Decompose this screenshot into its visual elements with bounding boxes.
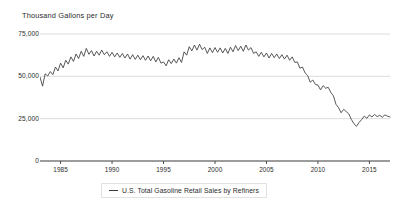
plot-area: 1985199019952000200520102015 <box>40 0 392 204</box>
y-axis-tick-label: 0 <box>5 157 39 164</box>
data-series-line <box>40 44 390 126</box>
chart-container: Thousand Gallons per Day 025,00050,00075… <box>0 0 407 204</box>
x-axis-tick-label: 2015 <box>362 166 377 173</box>
y-axis-tick-label: 75,000 <box>5 30 39 37</box>
chart-legend: U.S. Total Gasoline Retail Sales by Refi… <box>101 183 267 198</box>
x-axis-tick-label: 1990 <box>105 166 120 173</box>
legend-item-label: U.S. Total Gasoline Retail Sales by Refi… <box>122 187 259 194</box>
y-axis-tick-label: 25,000 <box>5 115 39 122</box>
y-axis-tick-label: 50,000 <box>5 72 39 79</box>
x-axis-tick-label: 1985 <box>53 166 68 173</box>
x-axis-tick-label: 2000 <box>208 166 223 173</box>
line-marker-icon <box>109 190 118 191</box>
chart-svg <box>40 0 392 204</box>
y-axis-tick-labels: 025,00050,00075,000 <box>0 0 39 204</box>
x-axis-tick-label: 1995 <box>156 166 171 173</box>
x-axis-tick-label: 2005 <box>259 166 274 173</box>
x-axis-tick-label: 2010 <box>311 166 326 173</box>
